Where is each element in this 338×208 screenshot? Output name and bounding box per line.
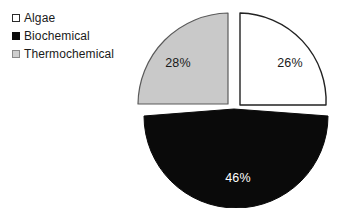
legend-label-thermochemical: Thermochemical [24, 47, 114, 61]
legend-label-biochemical: Biochemical [24, 29, 90, 43]
legend-item-algae[interactable]: Algae [12, 9, 114, 27]
legend-item-biochemical[interactable]: Biochemical [12, 27, 114, 45]
pie-slice-biochemical[interactable] [144, 109, 328, 208]
legend-swatch-thermochemical-icon [12, 50, 20, 58]
pie-label-thermochemical: 28% [165, 56, 191, 70]
legend-swatch-algae-icon [12, 14, 20, 22]
legend-item-thermochemical[interactable]: Thermochemical [12, 45, 114, 63]
pie-label-algae: 26% [277, 56, 303, 70]
legend-swatch-biochemical-icon [12, 32, 20, 40]
legend-label-algae: Algae [24, 11, 55, 25]
pie-chart-figure: Algae Biochemical Thermochemical 28% 26%… [0, 0, 338, 208]
pie-label-biochemical: 46% [225, 171, 251, 185]
chart-legend: Algae Biochemical Thermochemical [12, 9, 114, 63]
